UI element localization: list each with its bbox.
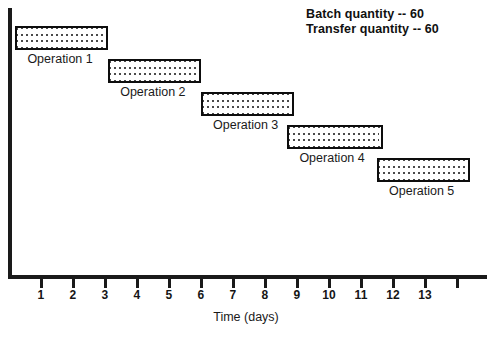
- gantt-bar: [287, 125, 383, 149]
- x-axis-tick: [72, 277, 75, 288]
- x-axis-tick-label: 6: [188, 288, 214, 302]
- x-axis-line: [8, 275, 487, 279]
- x-axis-tick-label: 10: [316, 288, 342, 302]
- gantt-bar-inner-border: [18, 29, 105, 47]
- x-axis-tick-label: 13: [412, 288, 438, 302]
- gantt-bar-label: Operation 2: [120, 85, 185, 99]
- x-axis-tick: [200, 277, 203, 288]
- x-axis-tick-label: 2: [60, 288, 86, 302]
- x-axis-tick: [136, 277, 139, 288]
- x-axis-tick: [232, 277, 235, 288]
- y-axis-line: [8, 8, 12, 279]
- gantt-bar: [15, 26, 108, 50]
- x-axis-tick: [264, 277, 267, 288]
- x-axis-tick: [424, 277, 427, 288]
- gantt-bar-inner-border: [290, 128, 380, 146]
- x-axis-tick: [456, 277, 459, 288]
- x-axis-tick: [328, 277, 331, 288]
- gantt-bar: [201, 92, 294, 116]
- x-axis-tick-label: 8: [252, 288, 278, 302]
- gantt-bar: [108, 59, 201, 83]
- x-axis-tick-label: 11: [348, 288, 374, 302]
- x-axis-tick-label: 12: [380, 288, 406, 302]
- x-axis-tick: [168, 277, 171, 288]
- gantt-bar-label: Operation 3: [213, 118, 278, 132]
- x-axis-title: Time (days): [0, 310, 492, 324]
- x-axis-tick-label: 5: [156, 288, 182, 302]
- x-axis-tick: [104, 277, 107, 288]
- x-axis-tick: [392, 277, 395, 288]
- x-axis-tick: [40, 277, 43, 288]
- legend-transfer-quantity: Transfer quantity -- 60: [306, 22, 439, 37]
- gantt-bar-inner-border: [380, 161, 467, 179]
- x-axis-tick-label: 9: [284, 288, 310, 302]
- x-axis-tick-label: 1: [28, 288, 54, 302]
- x-axis-tick-label: 3: [92, 288, 118, 302]
- gantt-bar-inner-border: [111, 62, 198, 80]
- x-axis-tick-label: 4: [124, 288, 150, 302]
- legend: Batch quantity -- 60 Transfer quantity -…: [306, 7, 439, 37]
- gantt-bar-inner-border: [204, 95, 291, 113]
- x-axis-tick: [296, 277, 299, 288]
- gantt-bar-label: Operation 1: [27, 52, 92, 66]
- gantt-bar-label: Operation 5: [389, 184, 454, 198]
- legend-batch-quantity: Batch quantity -- 60: [306, 7, 439, 22]
- gantt-chart-figure: 12345678910111213 Time (days) Operation …: [0, 0, 492, 340]
- gantt-bar: [377, 158, 470, 182]
- gantt-bar-label: Operation 4: [299, 151, 364, 165]
- x-axis-tick-label: 7: [220, 288, 246, 302]
- x-axis-tick: [360, 277, 363, 288]
